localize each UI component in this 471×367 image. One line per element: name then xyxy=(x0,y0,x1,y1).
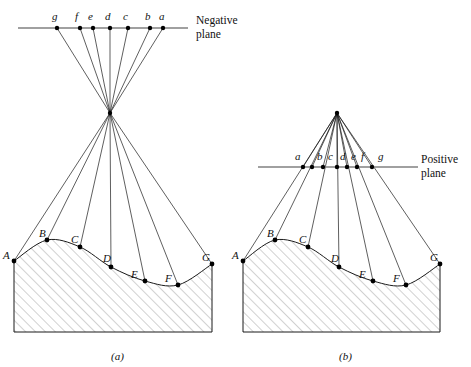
image-point-label-b-b: b xyxy=(317,150,323,164)
scene-point-label-C-a: C xyxy=(71,233,78,247)
scene-point-G-a xyxy=(210,262,215,267)
ray-scene-B-b xyxy=(275,113,337,240)
panel-caption-a: (a) xyxy=(111,350,124,364)
ray-image-b-a xyxy=(110,28,150,113)
scene-point-label-F-b: F xyxy=(393,272,400,286)
image-point-c-a xyxy=(126,26,130,30)
image-point-label-a-b: a xyxy=(295,150,301,164)
image-point-label-c-b: c xyxy=(328,150,333,164)
image-point-label-b-a: b xyxy=(145,10,151,24)
ray-scene-C-b xyxy=(308,113,337,247)
image-point-d-b xyxy=(335,165,339,169)
image-point-label-g-a: g xyxy=(52,10,58,24)
plane-name-a: Negativeplane xyxy=(196,13,238,42)
image-point-label-d-a: d xyxy=(105,10,111,24)
scene-point-label-B-a: B xyxy=(39,227,46,241)
scene-point-label-D-b: D xyxy=(331,252,339,266)
terrain-fill-b xyxy=(243,239,440,332)
projection-diagram xyxy=(0,0,471,367)
panel-b xyxy=(241,111,443,332)
panel-a xyxy=(12,26,215,332)
plane-name-line-1-b: Positive xyxy=(421,152,458,166)
scene-point-label-A-a: A xyxy=(3,249,10,263)
scene-point-F-b xyxy=(404,283,409,288)
ray-image-a-a xyxy=(110,28,163,113)
ray-scene-E-b xyxy=(337,113,373,281)
ray-image-g-a xyxy=(57,28,110,113)
scene-point-label-C-b: C xyxy=(299,233,306,247)
image-point-c-b xyxy=(321,165,325,169)
scene-point-label-F-a: F xyxy=(165,272,172,286)
image-point-label-f-b: f xyxy=(361,150,364,164)
image-point-label-e-a: e xyxy=(88,10,93,24)
image-point-a-b xyxy=(301,165,305,169)
image-point-f-a xyxy=(78,26,82,30)
scene-point-label-D-a: D xyxy=(103,252,111,266)
plane-name-b: Positiveplane xyxy=(421,152,458,181)
plane-name-line-1-a: Negative xyxy=(196,13,238,27)
ray-image-e-a xyxy=(93,28,110,113)
image-point-label-e-b: e xyxy=(351,150,356,164)
ray-image-c-a xyxy=(110,28,128,113)
scene-point-E-a xyxy=(143,279,148,284)
center-of-projection-b xyxy=(335,111,339,115)
image-point-label-g-b: g xyxy=(378,150,384,164)
ray-scene-A-a xyxy=(14,113,110,261)
ray-scene-C-a xyxy=(80,113,110,247)
image-point-label-d-b: d xyxy=(340,150,346,164)
scene-point-G-b xyxy=(438,262,443,267)
scene-point-label-E-a: E xyxy=(131,268,138,282)
scene-point-label-G-b: G xyxy=(430,251,438,265)
panel-caption-b: (b) xyxy=(339,350,352,364)
ray-scene-B-a xyxy=(47,113,110,240)
center-of-projection-a xyxy=(108,111,112,115)
image-point-label-a-a: a xyxy=(159,10,165,24)
ray-image-b-b xyxy=(312,113,337,167)
image-point-e-b xyxy=(345,165,349,169)
scene-point-label-G-a: G xyxy=(202,251,210,265)
scene-point-F-a xyxy=(176,283,181,288)
scene-point-A-a xyxy=(12,259,17,264)
ray-scene-E-a xyxy=(110,113,145,281)
ray-image-f-a xyxy=(80,28,110,113)
image-point-b-b xyxy=(310,165,314,169)
scene-point-label-E-b: E xyxy=(359,268,366,282)
scene-point-label-A-b: A xyxy=(232,249,239,263)
image-point-b-a xyxy=(148,26,152,30)
figure-canvas: gfedcbaABCDEFGNegativeplaneabcdefgABCDEF… xyxy=(0,0,471,367)
image-point-a-a xyxy=(161,26,165,30)
image-point-label-c-a: c xyxy=(123,10,128,24)
terrain-fill-a xyxy=(14,239,212,332)
plane-name-line-2-b: plane xyxy=(421,166,458,180)
scene-point-A-b xyxy=(241,259,246,264)
plane-name-line-2-a: plane xyxy=(196,27,238,41)
image-point-e-a xyxy=(91,26,95,30)
scene-point-label-B-b: B xyxy=(267,227,274,241)
image-point-label-f-a: f xyxy=(75,10,78,24)
image-point-g-b xyxy=(370,165,374,169)
image-point-f-b xyxy=(355,165,359,169)
image-point-g-a xyxy=(55,26,59,30)
image-point-d-a xyxy=(108,26,112,30)
ray-scene-D-a xyxy=(110,113,111,267)
scene-point-E-b xyxy=(371,279,376,284)
